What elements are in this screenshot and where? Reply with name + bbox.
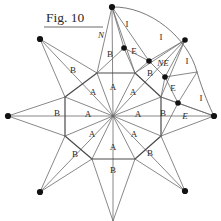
- tile-label-a-ul: A: [90, 87, 97, 97]
- tile-label-i-upper: I: [160, 32, 163, 42]
- vertex-dot-inner-ne: [146, 58, 152, 64]
- tile-label-b-left: B: [54, 108, 60, 118]
- tile-label-b-lr: B: [147, 148, 153, 158]
- tile-label-e-arc: E: [170, 83, 176, 93]
- tile-label-b-bottom: B: [110, 165, 116, 175]
- tile-label-b-top: B: [107, 49, 113, 59]
- figure-page: Fig. 10: [0, 0, 221, 221]
- figure-canvas: Fig. 10: [0, 0, 221, 221]
- tile-label-i-right: I: [186, 56, 189, 66]
- tile-label-n: N: [97, 30, 105, 40]
- vertex-dot-top: [109, 4, 115, 10]
- vertex-dot-upper-left: [37, 36, 43, 42]
- tile-label-b-ll: B: [72, 149, 78, 159]
- tile-label-i-lower: I: [200, 93, 203, 103]
- tile-label-i-top: I: [126, 19, 129, 29]
- tile-label-a-right: A: [135, 109, 142, 119]
- vertex-dot-inner-n: [121, 45, 127, 51]
- tile-label-a-left: A: [85, 109, 92, 119]
- tile-label-b-right: B: [160, 108, 166, 118]
- tile-label-ne: NE: [156, 58, 169, 68]
- tile-label-b-ne: B: [147, 68, 153, 78]
- vertex-dot-bottom-left: [37, 189, 43, 195]
- vertex-dot-right: [211, 113, 217, 119]
- tile-label-a-top: A: [110, 82, 117, 92]
- tile-label-e-right: E: [181, 111, 188, 121]
- vertex-dot-arc-c: [175, 100, 181, 106]
- vertex-dot-bottom-right: [182, 188, 188, 194]
- tile-label-a-ll: A: [89, 129, 96, 139]
- tile-label-a-lr: A: [131, 129, 138, 139]
- vertex-dot-left: [5, 113, 11, 119]
- tile-label-e-top: E: [131, 46, 137, 56]
- figure-title: Fig. 10: [46, 10, 85, 25]
- tile-label-a-ur: A: [130, 87, 137, 97]
- vertex-dot-arc-a: [182, 37, 188, 43]
- tile-label-a-bottom: A: [110, 142, 117, 152]
- vertex-dot-arc-b: [162, 74, 168, 80]
- tile-label-b-ul: B: [70, 65, 76, 75]
